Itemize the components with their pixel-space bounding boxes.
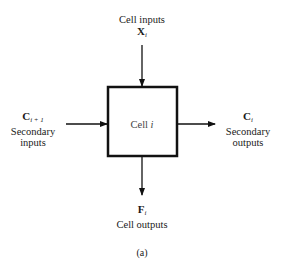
left-input-symbol: Ci + 1 xyxy=(4,111,62,126)
bottom-output-symbol: Fi xyxy=(107,204,177,219)
top-input-text: Cell inputs xyxy=(112,14,172,25)
bottom-output-text: Cell outputs xyxy=(107,219,177,230)
figure-caption: (a) xyxy=(122,247,162,258)
right-output-symbol: Ci xyxy=(218,111,278,126)
bottom-output-label: Fi Cell outputs xyxy=(107,204,177,230)
top-input-symbol: Xi xyxy=(112,26,172,41)
right-output-line1: Secondary xyxy=(218,126,278,137)
cell-label: Cell i xyxy=(112,119,172,130)
left-input-label: Ci + 1 Secondary inputs xyxy=(4,111,62,148)
left-input-line1: Secondary xyxy=(4,126,62,137)
left-input-line2: inputs xyxy=(4,137,62,148)
top-input-label: Cell inputs Xi xyxy=(112,14,172,41)
right-output-label: Ci Secondary outputs xyxy=(218,111,278,148)
right-output-line2: outputs xyxy=(218,137,278,148)
